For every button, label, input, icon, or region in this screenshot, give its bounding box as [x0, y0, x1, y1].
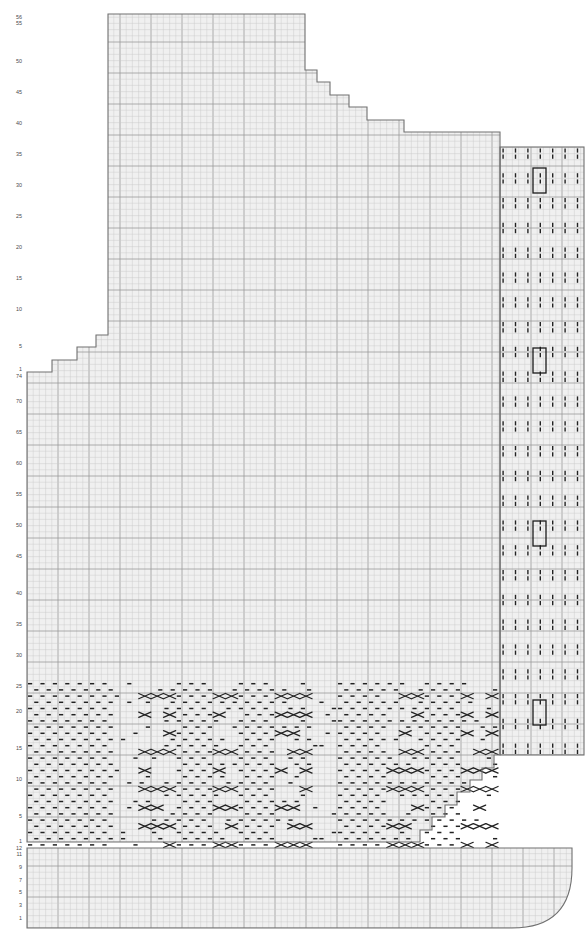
row-label: 5 [19, 343, 22, 349]
row-label: 35 [16, 151, 22, 157]
row-label: 50 [16, 58, 22, 64]
row-label: 65 [16, 429, 22, 435]
row-label: 7 [19, 877, 22, 883]
row-label: 9 [19, 864, 22, 870]
row-label: 1 [19, 366, 22, 372]
knitting-chart: 5655504540353025201510517470656055504540… [0, 0, 588, 935]
row-label: 5 [19, 813, 22, 819]
row-label: 11 [16, 851, 22, 857]
row-label: 20 [16, 708, 22, 714]
side-rib-panel [500, 147, 584, 755]
row-label: 30 [16, 182, 22, 188]
row-label: 70 [16, 398, 22, 404]
row-label: 25 [16, 213, 22, 219]
lower-hem-panel [27, 848, 572, 928]
row-label: 5 [19, 889, 22, 895]
row-label: 15 [16, 745, 22, 751]
row-label: 60 [16, 460, 22, 466]
row-label: 74 [16, 373, 22, 379]
row-label: 45 [16, 89, 22, 95]
row-label: 55 [16, 20, 22, 26]
row-label: 30 [16, 652, 22, 658]
row-label: 3 [19, 902, 22, 908]
chart-canvas: 5655504540353025201510517470656055504540… [0, 0, 588, 935]
row-label: 15 [16, 275, 22, 281]
row-label: 40 [16, 120, 22, 126]
row-label: 10 [16, 306, 22, 312]
row-label: 55 [16, 491, 22, 497]
row-label: 35 [16, 621, 22, 627]
row-label: 25 [16, 683, 22, 689]
row-label: 1 [19, 915, 22, 921]
row-label: 1 [19, 838, 22, 844]
row-label: 20 [16, 244, 22, 250]
row-label: 10 [16, 776, 22, 782]
row-label: 45 [16, 553, 22, 559]
row-label: 50 [16, 522, 22, 528]
row-label: 40 [16, 590, 22, 596]
